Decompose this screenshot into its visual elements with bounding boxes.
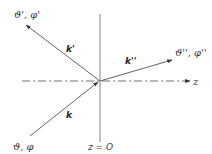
reflected-angles-label: ϑ', φ' [14,9,40,20]
transmitted-angles-label: ϑ'', φ'' [175,47,207,58]
interface-label: z = O [87,142,113,152]
reflected-vector-k-prime [26,25,100,81]
reflected-vector-label: k' [66,44,75,54]
transmitted-vector-label: k'' [125,56,137,66]
incident-vector-k [30,82,98,136]
z-axis-label: z [192,76,199,87]
scattering-diagram: z k ϑ, φ k' ϑ', φ' k'' ϑ'', φ'' z = O [0,0,212,154]
incident-angles-label: ϑ, φ [13,141,34,152]
incident-vector-label: k [66,110,73,120]
